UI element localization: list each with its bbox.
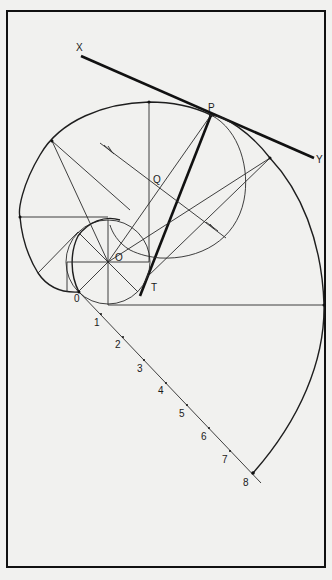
scale-label-7: 7 [222,454,228,465]
scale-label-8: 8 [243,477,249,488]
scale-label-5: 5 [179,408,185,419]
label-p: P [208,102,215,113]
label-y: Y [316,154,323,165]
scale-label-4: 4 [158,385,164,396]
label-x: X [76,42,83,53]
tangent-line-xy [81,56,314,158]
scale-label-6: 6 [201,431,207,442]
spiral-points [19,101,326,307]
spiral-tangent-drawing: X Y P Q O T [0,0,332,580]
bisector-line [100,143,226,238]
spiral-outer-arc [20,102,324,473]
label-o-center: O [115,252,123,263]
line-to-t [146,158,270,278]
arc-mark-lower [206,222,218,231]
arc-mark-upper [104,145,114,154]
label-t: T [151,282,157,293]
normal-line-pt [140,115,211,296]
diag-upper-left [52,141,130,210]
scale-label-2: 2 [115,339,121,350]
scale-label-1: 1 [94,317,100,328]
label-q: Q [153,174,161,185]
scale-line [80,293,261,483]
scale-label-3: 3 [137,363,143,374]
scale-ticks [100,313,255,475]
scale-label-0: 0 [74,293,80,304]
